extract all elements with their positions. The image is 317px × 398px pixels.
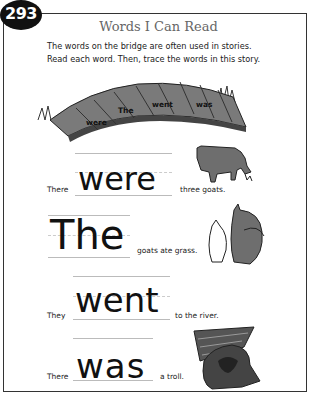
sentence-1-after: three goats. [180,185,225,194]
worksheet-title: Words I Can Read [0,19,317,34]
instructions: The words on the bridge are often used i… [47,40,260,66]
sentence-1-before: There [47,185,68,194]
two-goats-illustration [204,202,268,270]
bridge-word-went: went [152,100,173,109]
trace-word-went: went [75,280,159,320]
bridge-word-were: were [86,118,107,127]
instruction-line-2: Read each word. Then, trace the words in… [47,53,260,66]
bridge-illustration: were The went was [28,72,258,142]
trace-word-the: The [50,212,124,258]
bridge-word-the: The [118,106,134,115]
guide-line-top [73,338,153,339]
bridge-word-was: was [196,100,213,109]
guide-line-top [75,153,172,154]
trace-word-was: was [76,348,145,384]
troll-under-bridge-illustration [192,325,266,391]
goat-grazing-illustration [195,144,255,186]
sentence-4-after: a troll. [160,372,184,381]
instruction-line-1: The words on the bridge are often used i… [47,40,260,53]
sentence-3-before: They [47,311,65,320]
sentence-2-after: goats ate grass. [137,246,197,255]
trace-word-were: were [78,160,156,198]
sentence-3-after: to the river. [175,311,219,320]
sentence-4-before: There [47,372,68,381]
guide-line-top [73,276,170,277]
